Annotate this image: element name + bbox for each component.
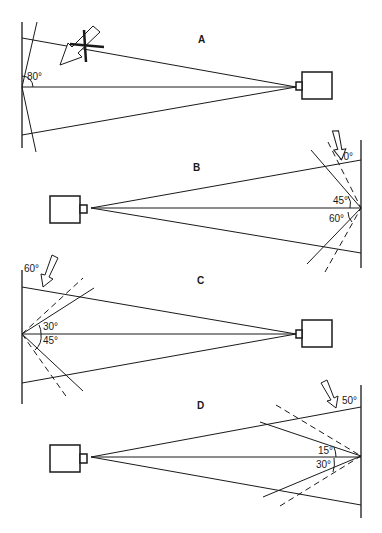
camera-body-d <box>50 445 80 472</box>
angle-label-d-30: 30° <box>316 459 331 470</box>
angle-arc-d-30 <box>333 458 334 472</box>
angle-label-c-45: 45° <box>43 335 58 346</box>
angle-label-c-60: 60° <box>24 263 39 274</box>
panel-b: 70° 45° 60° B <box>50 129 361 272</box>
camera-body-c <box>302 320 332 347</box>
panel-label-b: B <box>193 162 200 173</box>
camera-body-a <box>302 72 332 99</box>
angle-label-80: 80° <box>27 71 42 82</box>
panel-label-d: D <box>197 400 204 411</box>
panel-label-c: C <box>197 275 204 286</box>
angle-arc-c-30 <box>39 325 41 334</box>
panel-a: 80° A <box>22 22 332 152</box>
light-plane-d-15 <box>260 422 361 456</box>
reflection-d-30 <box>263 456 361 497</box>
angle-label-60: 60° <box>329 213 344 224</box>
view-ray-c-bottom <box>22 334 296 383</box>
camera-lens-a <box>296 82 302 90</box>
angle-arc-b-45 <box>348 196 351 208</box>
view-ray-a-bottom <box>22 87 296 135</box>
panel-c: 60° 30° 45° C <box>22 255 332 404</box>
light-arrow-d-icon <box>321 380 338 408</box>
angle-label-15: 15° <box>318 445 333 456</box>
camera-lens-b <box>80 205 87 213</box>
angle-arc-d-15 <box>334 447 336 457</box>
camera-lens-c <box>296 330 302 338</box>
camera-lens-d <box>80 454 87 463</box>
camera-light-angle-diagram: 80° A 70° 45° 60° B <box>0 0 382 533</box>
angle-label-30: 30° <box>43 321 58 332</box>
angle-label-50: 50° <box>342 395 357 406</box>
view-ray-c-top <box>22 287 296 334</box>
view-ray-b-bottom <box>91 208 361 253</box>
panel-label-a: A <box>198 34 205 45</box>
light-plane-a-bottom <box>22 87 36 152</box>
angle-label-45: 45° <box>333 195 348 206</box>
camera-body-b <box>50 196 80 223</box>
panel-d: 50° 15° 30° D <box>50 380 361 518</box>
light-arrow-c-icon <box>41 255 58 287</box>
view-ray-b-top <box>91 160 361 208</box>
